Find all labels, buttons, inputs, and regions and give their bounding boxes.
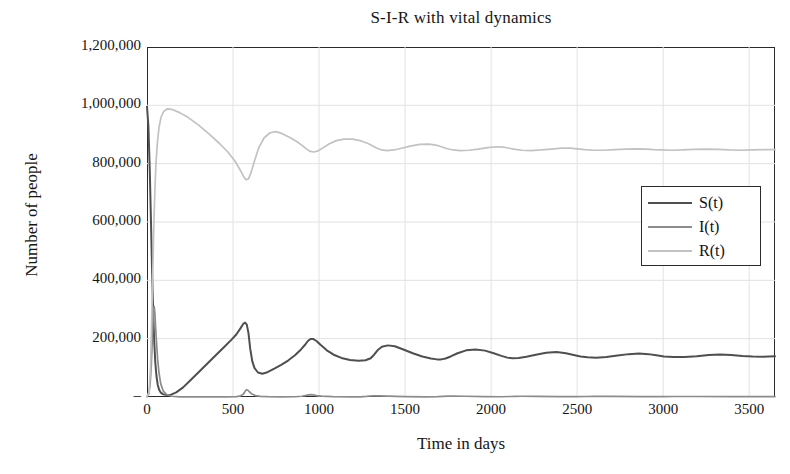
y-tick-label: 400,000 [41, 270, 141, 287]
y-tick-label: 800,000 [41, 154, 141, 171]
legend-label: S(t) [699, 195, 723, 211]
y-tick-label: 1,200,000 [41, 37, 141, 54]
x-tick-label: 0 [102, 401, 192, 418]
legend-line-swatch [648, 202, 692, 204]
x-tick-label: 1500 [360, 401, 450, 418]
legend: S(t)I(t)R(t) [641, 186, 761, 266]
x-tick-label: 3000 [618, 401, 708, 418]
legend-item[interactable]: I(t) [648, 215, 754, 239]
legend-line-swatch [648, 250, 692, 252]
x-tick-label: 1000 [274, 401, 364, 418]
x-tick-label: 2000 [446, 401, 536, 418]
y-tick-label: 1,000,000 [41, 95, 141, 112]
chart-container: S-I-R with vital dynamics Number of peop… [0, 0, 790, 474]
x-tick-label: 2500 [532, 401, 622, 418]
legend-label: R(t) [699, 243, 725, 259]
legend-label: I(t) [699, 219, 719, 235]
x-tick-label: 500 [188, 401, 278, 418]
legend-item[interactable]: R(t) [648, 239, 754, 263]
x-tick-label: 3500 [704, 401, 790, 418]
legend-item[interactable]: S(t) [648, 191, 754, 215]
legend-line-swatch [648, 226, 692, 228]
chart-title: S-I-R with vital dynamics [147, 8, 775, 28]
y-tick-label: 200,000 [41, 329, 141, 346]
y-tick-label: 600,000 [41, 212, 141, 229]
x-axis-title: Time in days [147, 434, 775, 454]
